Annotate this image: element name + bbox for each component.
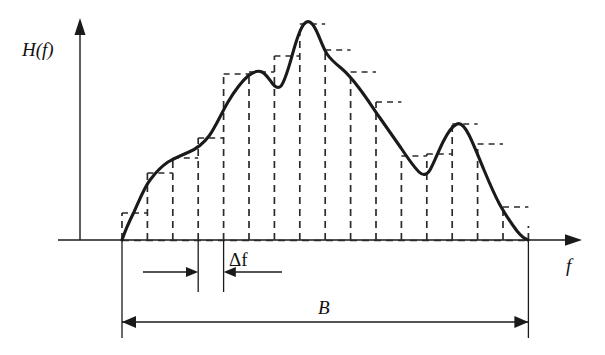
bandwidth-arrowhead-right [514, 316, 528, 328]
frequency-response-figure: Δf B H(f) f [0, 0, 605, 355]
figure-canvas: Δf B H(f) f [0, 0, 605, 355]
bandwidth-label: B [318, 297, 330, 318]
y-axis-arrowhead [75, 18, 86, 35]
bandwidth-dimension-group: B [122, 240, 528, 338]
x-axis-arrowhead [565, 234, 582, 246]
x-axis-label: f [566, 255, 574, 276]
delta-f-dimension-group: Δf [122, 240, 282, 338]
y-axis-label: H(f) [21, 39, 54, 61]
delta-f-arrowhead-right-pointing [186, 267, 198, 277]
bandwidth-arrowhead-left [122, 316, 136, 328]
delta-f-label: Δf [229, 249, 248, 270]
